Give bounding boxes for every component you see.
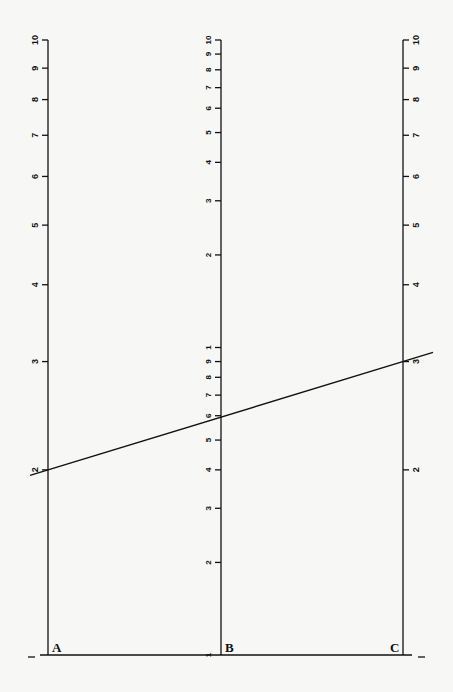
tick-label-b-80: 8 [204, 67, 213, 72]
tick-label-b-4: 4 [204, 467, 213, 472]
tick-label-a-7: 7 [30, 133, 40, 138]
tick-label-a-4: 4 [30, 282, 40, 287]
tick-label-c-9: 9 [411, 66, 421, 71]
tick-label-a-6: 6 [30, 174, 40, 179]
tick-label-a-10: 10 [30, 35, 40, 45]
tick-label-b-5: 5 [204, 437, 213, 442]
tick-label-b-30: 3 [204, 198, 213, 203]
tick-label-b-20: 2 [204, 252, 213, 257]
tick-label-a-8: 8 [30, 97, 40, 102]
tick-label-b-70: 7 [204, 85, 213, 90]
tick-label-b-50: 5 [204, 130, 213, 135]
tick-label-b-10: 1 [204, 345, 213, 350]
ticks-group: 2345678910123456789123456789102345678910 [30, 35, 421, 657]
axis-label-b: B [225, 640, 234, 655]
tick-label-b-90: 9 [204, 51, 213, 56]
tick-label-c-5: 5 [411, 223, 421, 228]
tick-label-c-8: 8 [411, 97, 421, 102]
tick-label-c-2: 2 [411, 467, 421, 472]
tick-label-c-6: 6 [411, 174, 421, 179]
axis-label-c: C [390, 640, 399, 655]
nomogram-svg: 2345678910123456789123456789102345678910… [0, 0, 453, 692]
tick-label-a-2: 2 [30, 467, 40, 472]
tick-label-b-9: 9 [204, 359, 213, 364]
axes-group [48, 40, 403, 655]
tick-label-b-6: 6 [204, 413, 213, 418]
tick-label-b-3: 3 [204, 506, 213, 511]
tick-label-c-4: 4 [411, 282, 421, 287]
tick-label-b-8: 8 [204, 375, 213, 380]
axis-label-a: A [52, 640, 62, 655]
tick-label-c-3: 3 [411, 359, 421, 364]
isopleth [30, 352, 433, 475]
tick-label-b-60: 6 [204, 105, 213, 110]
tick-label-b-2: 2 [204, 560, 213, 565]
tick-label-c-7: 7 [411, 133, 421, 138]
tick-label-a-5: 5 [30, 223, 40, 228]
tick-label-a-3: 3 [30, 359, 40, 364]
tick-label-b-100: 10 [204, 35, 213, 44]
nomogram: 2345678910123456789123456789102345678910… [0, 0, 453, 692]
tick-label-b-40: 4 [204, 160, 213, 165]
tick-label-c-10: 10 [411, 35, 421, 45]
tick-label-a-9: 9 [30, 66, 40, 71]
isopleth-line [30, 352, 433, 475]
tick-label-b-7: 7 [204, 392, 213, 397]
